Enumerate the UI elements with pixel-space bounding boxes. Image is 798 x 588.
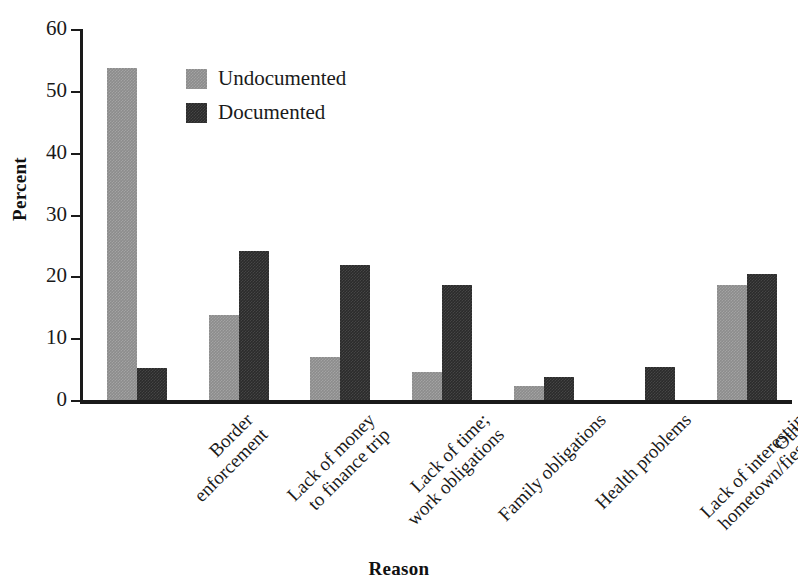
bar-undocumented-2 xyxy=(310,357,340,400)
y-tick-label: 0 xyxy=(57,387,68,412)
y-axis-line xyxy=(80,29,83,400)
bar-undocumented-6 xyxy=(717,285,747,400)
bar-documented-2 xyxy=(340,265,370,400)
y-tick-mark xyxy=(71,215,80,217)
y-tick-mark xyxy=(71,153,80,155)
bar-undocumented-0 xyxy=(107,68,137,400)
y-tick-label: 50 xyxy=(46,78,67,103)
bar-undocumented-3 xyxy=(412,372,442,400)
legend-label: Undocumented xyxy=(218,66,346,91)
y-tick-label: 30 xyxy=(46,202,67,227)
x-axis-line xyxy=(80,400,792,404)
legend-item-undocumented: Undocumented xyxy=(186,66,346,91)
bar-chart-figure: Percent 0102030405060 UndocumentedDocume… xyxy=(0,0,798,588)
x-tick-label-2: Lack of time;work obligations xyxy=(388,409,509,530)
x-tick-label-line: Family obligations xyxy=(494,409,610,525)
y-tick-mark xyxy=(71,338,80,340)
bar-documented-0 xyxy=(137,368,167,400)
y-tick-label: 40 xyxy=(46,140,67,165)
y-tick-mark xyxy=(71,400,80,402)
bar-documented-3 xyxy=(442,285,472,400)
y-tick-label: 10 xyxy=(46,325,67,350)
bar-documented-6 xyxy=(747,274,777,400)
bar-documented-4 xyxy=(544,377,574,400)
bar-documented-1 xyxy=(239,251,269,400)
x-tick-label-3: Family obligations xyxy=(494,409,610,525)
y-tick-mark xyxy=(71,276,80,278)
legend-item-documented: Documented xyxy=(186,100,346,125)
x-tick-label-0: Borderenforcement xyxy=(175,409,272,506)
x-tick-label-1: Lack of moneyto finance trip xyxy=(282,409,393,520)
chart-legend: UndocumentedDocumented xyxy=(186,66,346,134)
legend-label: Documented xyxy=(218,100,325,125)
y-axis-title: Percent xyxy=(9,129,31,249)
bar-undocumented-1 xyxy=(209,315,239,400)
bar-undocumented-4 xyxy=(514,386,544,400)
legend-swatch xyxy=(186,103,207,123)
x-axis-title: Reason xyxy=(0,558,798,580)
y-tick-mark xyxy=(71,91,80,93)
legend-swatch xyxy=(186,69,207,89)
y-tick-mark xyxy=(71,29,80,31)
bar-documented-5 xyxy=(645,367,675,400)
y-tick-label: 20 xyxy=(46,263,67,288)
y-tick-label: 60 xyxy=(46,16,67,41)
